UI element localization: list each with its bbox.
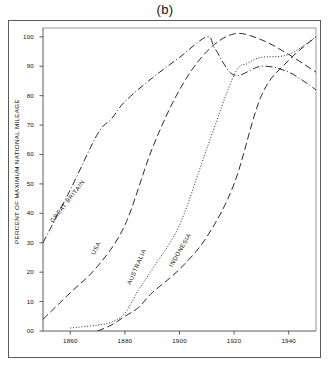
y-axis-tick-label: 40 [12, 209, 34, 216]
y-axis-tick-label: 70 [12, 121, 34, 128]
series-line-indonesia [98, 37, 316, 331]
y-axis-tick-label: 80 [12, 92, 34, 99]
plot-border [43, 28, 316, 331]
y-axis-tick-label: 20 [12, 268, 34, 275]
x-axis-tick-label: 1880 [108, 337, 142, 344]
chart-plot-area [0, 0, 330, 373]
axis-spines [43, 28, 316, 331]
y-axis-tick-label: 90 [12, 62, 34, 69]
series-line-great-britain [43, 37, 316, 243]
x-axis-tick-label: 1900 [163, 337, 197, 344]
y-axis-tick-label: 100 [12, 33, 34, 40]
y-axis-tick-label: 00 [12, 327, 34, 334]
y-axis-tick-label: 10 [12, 298, 34, 305]
figure-panel: (b) PERCENT OF MAXIMUM NATIONAL MILEAGE … [0, 0, 330, 373]
y-axis-tick-label: 60 [12, 150, 34, 157]
series-line-usa [43, 33, 316, 319]
x-axis-tick-label: 1860 [53, 337, 87, 344]
y-axis-tick-label: 30 [12, 239, 34, 246]
x-axis-tick-label: 1940 [272, 337, 306, 344]
series-line-australia [70, 37, 316, 328]
x-axis-tick-label: 1920 [217, 337, 251, 344]
y-axis-tick-label: 50 [12, 180, 34, 187]
